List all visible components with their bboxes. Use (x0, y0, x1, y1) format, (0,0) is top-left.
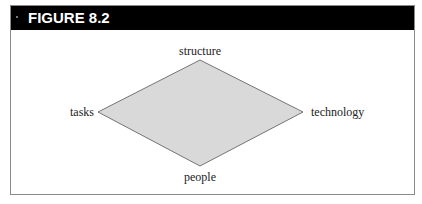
diamond-diagram: structure tasks technology people (0, 0, 422, 204)
label-technology: technology (311, 105, 364, 119)
diamond-shape (98, 60, 303, 166)
label-people: people (184, 170, 216, 184)
label-structure: structure (179, 44, 221, 58)
label-tasks: tasks (70, 105, 94, 119)
